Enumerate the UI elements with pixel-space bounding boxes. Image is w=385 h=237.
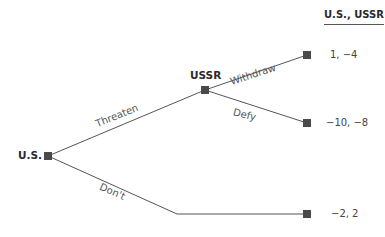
branch-dont <box>48 156 307 214</box>
node-ussr <box>201 86 209 94</box>
payoff-withdraw: 1, −4 <box>330 49 357 60</box>
player-us-label: U.S. <box>18 149 42 161</box>
payoff-dont: −2, 2 <box>331 208 358 219</box>
terminal-defy <box>303 119 311 127</box>
terminal-dont <box>303 210 311 218</box>
terminal-withdraw <box>303 51 311 59</box>
player-ussr-label: USSR <box>190 69 221 81</box>
branch-defy <box>205 90 307 123</box>
payoff-defy: −10, −8 <box>326 117 368 128</box>
payoff-header: U.S., USSR <box>324 9 384 25</box>
branch-threaten <box>48 90 205 156</box>
node-us <box>44 152 52 160</box>
